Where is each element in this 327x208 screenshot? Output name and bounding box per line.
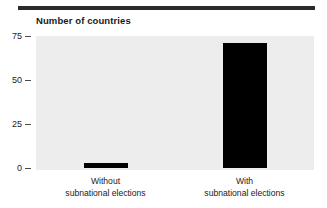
- category-label-line1: With: [180, 176, 310, 188]
- y-tick-label-25: 25: [12, 120, 22, 129]
- y-tick-mark-0: [25, 168, 31, 169]
- y-tick-label-50: 50: [12, 76, 22, 85]
- bar-without-subnational-elections: [84, 163, 128, 168]
- y-tick-mark-25: [25, 124, 31, 125]
- y-tick-mark-50: [25, 80, 31, 81]
- category-label-line1: Without: [41, 176, 171, 188]
- bar-chart-figure: Number of countries 75 50 25 0 Without s…: [0, 0, 327, 208]
- y-axis: 75 50 25 0: [0, 0, 36, 208]
- bar-with-subnational-elections: [223, 43, 267, 168]
- header-rule: [18, 6, 315, 10]
- y-tick-label-75: 75: [12, 32, 22, 41]
- category-label-with-subnational-elections: With subnational elections: [180, 176, 310, 199]
- y-tick-label-0: 0: [17, 164, 22, 173]
- y-tick-mark-75: [25, 36, 31, 37]
- chart-title: Number of countries: [36, 15, 131, 26]
- category-label-line2: subnational elections: [180, 188, 310, 200]
- category-label-without-subnational-elections: Without subnational elections: [41, 176, 171, 199]
- plot-area: [36, 36, 314, 170]
- category-label-line2: subnational elections: [41, 188, 171, 200]
